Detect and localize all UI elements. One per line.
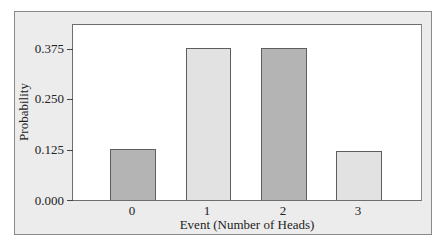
bar-2 xyxy=(261,48,307,200)
y-tick-label: 0.125 xyxy=(14,142,64,158)
plot-area xyxy=(72,24,422,201)
bar-1 xyxy=(186,48,231,200)
y-tick-label: 0.375 xyxy=(14,41,64,57)
y-tick-0375 xyxy=(67,49,73,50)
y-axis-title: Probability xyxy=(16,83,32,141)
y-tick-0000 xyxy=(67,200,73,201)
x-axis-title: Event (Number of Heads) xyxy=(72,217,422,233)
bar-0 xyxy=(110,149,156,200)
y-tick-0250 xyxy=(67,99,73,100)
y-tick-label: 0.000 xyxy=(14,193,64,209)
y-tick-0125 xyxy=(67,150,73,151)
bar-3 xyxy=(336,151,382,200)
